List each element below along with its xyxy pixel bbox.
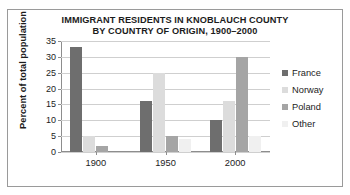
y-tick-label: 0 bbox=[51, 147, 56, 157]
bar-poland-1900 bbox=[96, 146, 108, 152]
plot-area: 05101520253035 bbox=[61, 41, 270, 152]
x-axis-label-1950: 1950 bbox=[131, 158, 201, 168]
y-axis-title: Percent of total population bbox=[18, 10, 28, 130]
legend-swatch-icon-france bbox=[282, 70, 288, 76]
bar-norway-2000 bbox=[223, 101, 235, 152]
bar-norway-1900 bbox=[83, 136, 95, 152]
y-tick-label: 15 bbox=[46, 99, 56, 109]
chart-title-line-1: IMMIGRANT RESIDENTS IN KNOBLAUCH COUNTY bbox=[8, 15, 342, 26]
legend-swatch-icon-poland bbox=[282, 104, 288, 110]
bar-group bbox=[61, 41, 131, 152]
legend-label: Other bbox=[292, 119, 315, 129]
bar-norway-1950 bbox=[153, 73, 165, 152]
legend-label: Norway bbox=[292, 85, 324, 95]
chart-title-line-2: BY COUNTRY OF ORIGIN, 1900–2000 bbox=[8, 26, 342, 37]
bar-france-1950 bbox=[140, 101, 152, 152]
legend-swatch-icon-norway bbox=[282, 87, 288, 93]
chart-title: IMMIGRANT RESIDENTS IN KNOBLAUCH COUNTY … bbox=[8, 15, 342, 37]
bar-other-2000 bbox=[249, 136, 261, 152]
legend-item-france[interactable]: France bbox=[282, 64, 342, 81]
bar-poland-1950 bbox=[166, 136, 178, 152]
y-tick-label: 10 bbox=[46, 115, 56, 125]
chart-legend: FranceNorwayPolandOther bbox=[282, 64, 342, 132]
bar-group bbox=[200, 41, 270, 152]
bar-group bbox=[131, 41, 201, 152]
y-tick-mark bbox=[58, 152, 61, 153]
x-axis-label-2000: 2000 bbox=[200, 158, 270, 168]
y-tick-label: 5 bbox=[51, 131, 56, 141]
bar-france-2000 bbox=[210, 120, 222, 152]
bar-france-1900 bbox=[70, 47, 82, 152]
chart-figure: IMMIGRANT RESIDENTS IN KNOBLAUCH COUNTY … bbox=[7, 9, 343, 187]
bar-other-1950 bbox=[179, 139, 191, 152]
legend-swatch-icon-other bbox=[282, 121, 288, 127]
bar-groups bbox=[61, 41, 270, 152]
bar-poland-2000 bbox=[236, 57, 248, 152]
y-tick-label: 20 bbox=[46, 84, 56, 94]
legend-label: France bbox=[292, 68, 321, 78]
x-axis-label-1900: 1900 bbox=[61, 158, 131, 168]
legend-item-other[interactable]: Other bbox=[282, 115, 342, 132]
legend-item-poland[interactable]: Poland bbox=[282, 98, 342, 115]
x-axis-labels: 190019502000 bbox=[61, 158, 270, 168]
legend-label: Poland bbox=[292, 102, 321, 112]
y-tick-label: 25 bbox=[46, 68, 56, 78]
x-tick-mark bbox=[166, 152, 167, 155]
legend-item-norway[interactable]: Norway bbox=[282, 81, 342, 98]
y-tick-label: 35 bbox=[46, 36, 56, 46]
x-tick-mark bbox=[235, 152, 236, 155]
y-tick-label: 30 bbox=[46, 52, 56, 62]
x-tick-mark bbox=[96, 152, 97, 155]
